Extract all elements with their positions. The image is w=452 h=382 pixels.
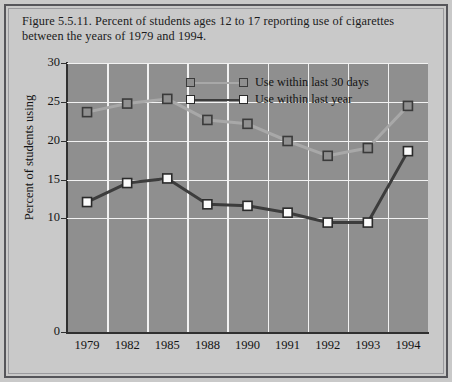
- legend-item-last-year: Use within last year: [186, 91, 369, 108]
- data-point-marker: [123, 179, 132, 188]
- legend-item-30-days: Use within last 30 days: [186, 74, 369, 91]
- legend-swatch-last-year: [186, 93, 248, 107]
- data-point-marker: [363, 144, 372, 153]
- data-point-marker: [243, 119, 252, 128]
- chart-legend: Use within last 30 days Use within last …: [186, 74, 369, 108]
- series-lines: [0, 0, 452, 382]
- legend-label-30-days: Use within last 30 days: [255, 75, 369, 90]
- data-point-marker: [83, 108, 92, 117]
- legend-marker-sample: [186, 78, 195, 87]
- data-point-marker: [323, 218, 332, 227]
- data-point-marker: [83, 198, 92, 207]
- data-point-marker: [283, 208, 292, 217]
- data-point-marker: [123, 99, 132, 108]
- data-point-marker: [203, 200, 212, 209]
- legend-swatch-30-days: [186, 76, 248, 90]
- data-point-marker: [203, 115, 212, 124]
- series-line-last-year: [87, 151, 408, 222]
- figure-container: Figure 5.5.11. Percent of students ages …: [0, 0, 452, 382]
- data-point-marker: [163, 174, 172, 183]
- legend-line-sample: [192, 99, 242, 102]
- legend-marker-sample: [186, 95, 195, 104]
- legend-marker-sample: [239, 78, 248, 87]
- legend-label-last-year: Use within last year: [255, 92, 352, 107]
- chart-plot-wrapper: 01015202530 1979198219851988199019911992…: [0, 0, 452, 382]
- data-point-marker: [323, 151, 332, 160]
- data-point-marker: [243, 201, 252, 210]
- data-point-marker: [403, 101, 412, 110]
- legend-line-sample: [192, 82, 242, 85]
- data-point-marker: [363, 218, 372, 227]
- y-axis-label: Percent of students using: [22, 68, 37, 248]
- data-point-marker: [403, 147, 412, 156]
- data-point-marker: [163, 94, 172, 103]
- legend-marker-sample: [239, 95, 248, 104]
- data-point-marker: [283, 137, 292, 146]
